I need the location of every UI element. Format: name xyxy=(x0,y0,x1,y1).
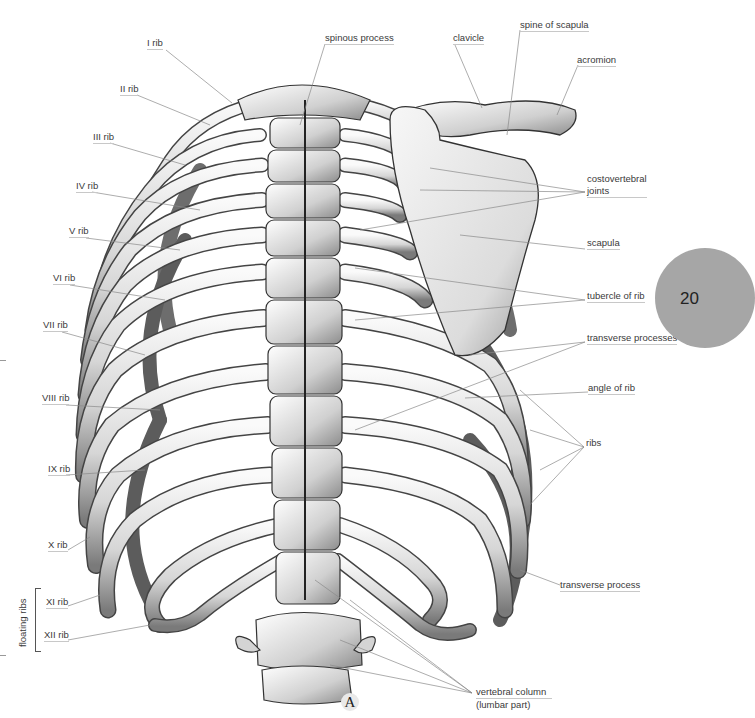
scapula-and-clavicle xyxy=(390,101,576,356)
label-rib-5: V rib xyxy=(69,225,89,238)
label-spinous-process: spinous process xyxy=(325,32,394,45)
label-rib-6: VI rib xyxy=(53,272,75,285)
left-ribs xyxy=(84,102,282,626)
label-transverse-process: transverse process xyxy=(560,579,640,592)
label-rib-1: I rib xyxy=(147,37,163,50)
label-vertebral-column-line1: vertebral column xyxy=(476,686,552,699)
label-spine-of-scapula: spine of scapula xyxy=(520,19,589,32)
label-rib-10: X rib xyxy=(48,539,68,552)
vertebral-column xyxy=(236,85,376,704)
edge-tick-mark xyxy=(0,655,6,656)
label-transverse-processes: transverse processes xyxy=(587,332,677,345)
label-costovertebral-line2: joints xyxy=(587,185,647,198)
label-rib-9: IX rib xyxy=(48,463,70,476)
label-rib-3: III rib xyxy=(93,131,114,144)
edge-tick-mark xyxy=(0,360,6,361)
label-scapula: scapula xyxy=(587,237,620,250)
label-rib-4: IV rib xyxy=(76,180,98,193)
label-rib-2: II rib xyxy=(120,83,138,96)
label-costovertebral-joints: costovertebral joints xyxy=(587,173,647,198)
label-acromion: acromion xyxy=(577,54,616,67)
label-rib-7: VII rib xyxy=(43,319,68,332)
figure-letter-badge: A xyxy=(341,693,359,711)
label-vertebral-column-line2: (lumbar part) xyxy=(476,699,530,710)
label-tubercle-of-rib: tubercle of rib xyxy=(587,290,645,303)
label-floating-ribs: floating ribs xyxy=(17,598,28,647)
label-clavicle: clavicle xyxy=(453,32,484,45)
floating-ribs-bracket xyxy=(35,588,41,652)
label-rib-12: XII rib xyxy=(44,629,69,642)
page-number: 20 xyxy=(680,289,699,309)
label-costovertebral-line1: costovertebral xyxy=(587,173,647,184)
page-number-circle xyxy=(655,248,755,348)
label-rib-11: XI rib xyxy=(46,596,68,609)
label-rib-8: VIII rib xyxy=(42,392,69,405)
label-vertebral-column-lumbar: vertebral column (lumbar part) xyxy=(476,686,552,711)
label-angle-of-rib: angle of rib xyxy=(588,382,635,395)
label-ribs: ribs xyxy=(586,437,601,449)
